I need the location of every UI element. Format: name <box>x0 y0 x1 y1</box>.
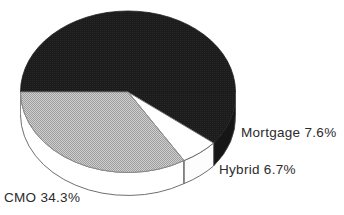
pie-chart: Mortgage 7.6% Hybrid 6.7% CMO 34.3% <box>0 0 344 215</box>
pie-chart-graphic <box>0 0 344 215</box>
pie-label-mortgage: Mortgage 7.6% <box>241 126 336 140</box>
pie-label-cmo: CMO 34.3% <box>4 191 80 205</box>
pie-label-hybrid: Hybrid 6.7% <box>219 163 296 177</box>
pie-top-face <box>21 11 236 172</box>
pie-slice-other <box>21 11 236 92</box>
